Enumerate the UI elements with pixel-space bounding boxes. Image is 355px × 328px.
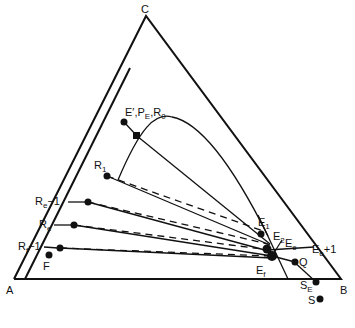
point-Q bbox=[292, 259, 299, 266]
label-Q: Q bbox=[299, 256, 308, 268]
operating-line-Re-1 bbox=[88, 202, 272, 252]
label-Ee: Ee bbox=[285, 237, 297, 252]
operating-line-R0 bbox=[137, 136, 270, 244]
point-Re bbox=[71, 222, 78, 229]
label-F: F bbox=[43, 260, 50, 272]
tie-line-Re-1 bbox=[88, 202, 268, 244]
point-E1 bbox=[258, 231, 265, 238]
label-Re: Re bbox=[39, 218, 52, 233]
point-E-prime bbox=[121, 119, 128, 126]
label-Re-1: Re−1 bbox=[35, 195, 60, 210]
label-R1: R1 bbox=[94, 159, 107, 174]
label-Ef: Ef bbox=[256, 264, 266, 279]
leader-Rf-1 bbox=[44, 247, 58, 248]
vertex-label-A: A bbox=[6, 284, 14, 296]
binodal-curve bbox=[118, 116, 268, 236]
operating-line-Rf-1 bbox=[60, 248, 272, 258]
label-S: S bbox=[308, 294, 315, 306]
label-E2: E2 bbox=[273, 230, 285, 245]
operating-line-Re bbox=[74, 225, 272, 256]
ternary-diagram: C A B E′,PE,R0 R1 Re−1 Re Rf−1 F E1 E2 E… bbox=[0, 0, 355, 328]
label-SE: SE bbox=[300, 279, 313, 294]
point-Rf-1 bbox=[57, 245, 64, 252]
point-SE bbox=[313, 279, 320, 286]
point-R0 bbox=[133, 132, 140, 139]
point-Ef bbox=[267, 251, 277, 261]
tie-line-R1 bbox=[107, 176, 266, 232]
point-F bbox=[46, 252, 53, 259]
point-S bbox=[317, 296, 324, 303]
vertex-label-C: C bbox=[141, 3, 149, 15]
label-E-prime-PE-R0: E′,PE,R0 bbox=[125, 106, 166, 121]
left-inner-boundary bbox=[25, 68, 130, 279]
point-Re-1 bbox=[85, 199, 92, 206]
vertex-label-B: B bbox=[340, 284, 347, 296]
